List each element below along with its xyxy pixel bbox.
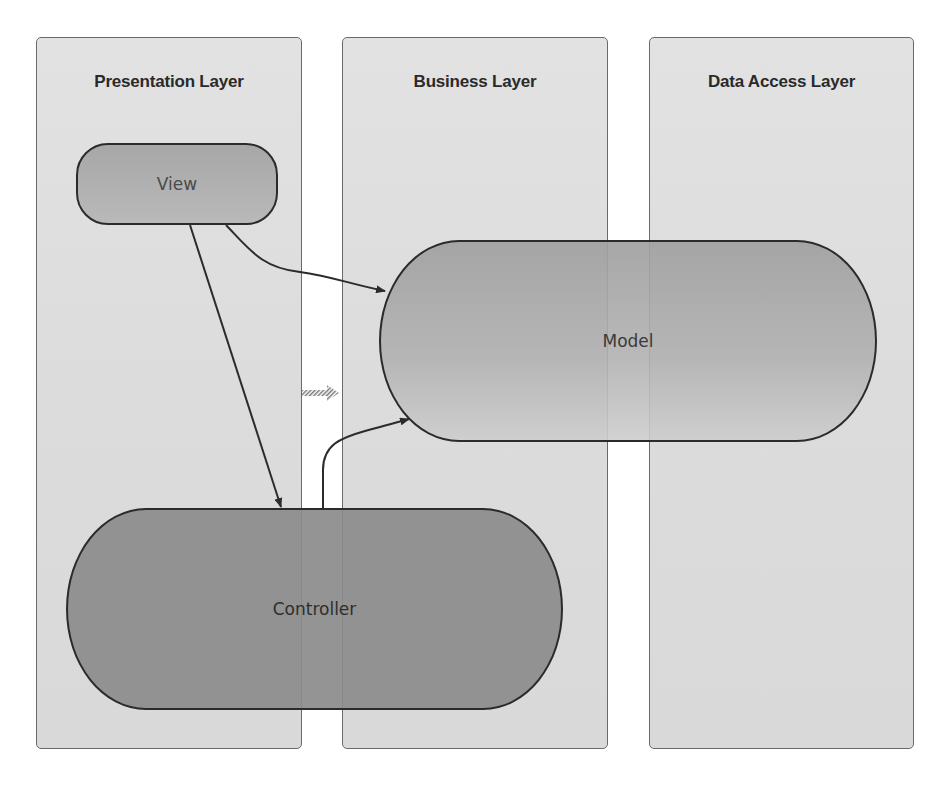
business-layer-title: Business Layer [343, 72, 607, 92]
presentation-layer-title: Presentation Layer [37, 72, 301, 92]
view-label: View [157, 174, 197, 194]
model-node: Model [379, 240, 877, 442]
data-access-layer-title: Data Access Layer [650, 72, 913, 92]
view-node: View [76, 143, 278, 225]
model-label: Model [602, 331, 653, 351]
hatched-arrow-icon [302, 385, 339, 401]
controller-node: Controller [66, 508, 563, 710]
controller-label: Controller [273, 599, 357, 619]
